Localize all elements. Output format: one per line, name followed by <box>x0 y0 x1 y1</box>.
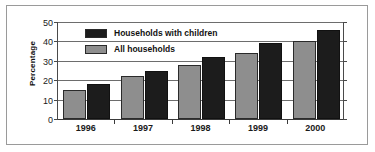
bar <box>87 84 110 119</box>
axis-tick-mark <box>343 100 347 101</box>
bar <box>259 43 282 119</box>
chart-legend: Households with childrenAll households <box>85 27 235 59</box>
y-axis-tick-labels: 01020304050 <box>29 23 53 120</box>
bar <box>235 53 258 119</box>
legend-item: Households with children <box>85 27 235 40</box>
legend-label: Households with children <box>114 29 217 38</box>
legend-swatch <box>85 45 107 54</box>
axis-tick-mark <box>343 22 347 23</box>
bar <box>202 57 225 119</box>
x-axis-tick-label: 1999 <box>236 124 280 133</box>
bar <box>317 30 340 119</box>
legend-swatch <box>85 29 107 38</box>
chart-figure: Percentage 01020304050 19961997199819992… <box>0 0 375 152</box>
y-axis-tick-label: 10 <box>31 97 53 106</box>
axis-tick-mark <box>54 22 58 23</box>
bar <box>63 90 86 119</box>
bar <box>121 76 144 119</box>
x-axis-tick-label: 1996 <box>64 124 108 133</box>
axis-tick-mark <box>54 119 58 120</box>
axis-tick-mark <box>54 80 58 81</box>
bar <box>145 71 168 120</box>
x-axis-tick-label: 1997 <box>121 124 165 133</box>
y-axis-tick-label: 30 <box>31 58 53 67</box>
bar <box>293 41 316 119</box>
axis-tick-mark <box>54 100 58 101</box>
legend-label: All households <box>114 45 175 54</box>
axis-tick-mark <box>343 41 347 42</box>
legend-item: All households <box>85 43 235 56</box>
x-axis-tick-label: 2000 <box>293 124 337 133</box>
y-axis-tick-label: 20 <box>31 77 53 86</box>
axis-tick-mark <box>54 41 58 42</box>
x-axis-tick-mark <box>287 120 288 124</box>
bar <box>178 65 201 119</box>
x-axis-tick-mark <box>114 120 115 124</box>
x-axis-tick-mark <box>172 120 173 124</box>
axis-tick-mark <box>343 61 347 62</box>
y-axis-tick-label: 0 <box>31 116 53 125</box>
axis-tick-mark <box>343 80 347 81</box>
gridline <box>58 22 343 23</box>
axis-tick-mark <box>54 61 58 62</box>
y-axis-tick-label: 40 <box>31 38 53 47</box>
axis-tick-mark <box>343 119 347 120</box>
x-axis-tick-mark <box>229 120 230 124</box>
x-axis-tick-label: 1998 <box>179 124 223 133</box>
y-axis-tick-label: 50 <box>31 19 53 28</box>
